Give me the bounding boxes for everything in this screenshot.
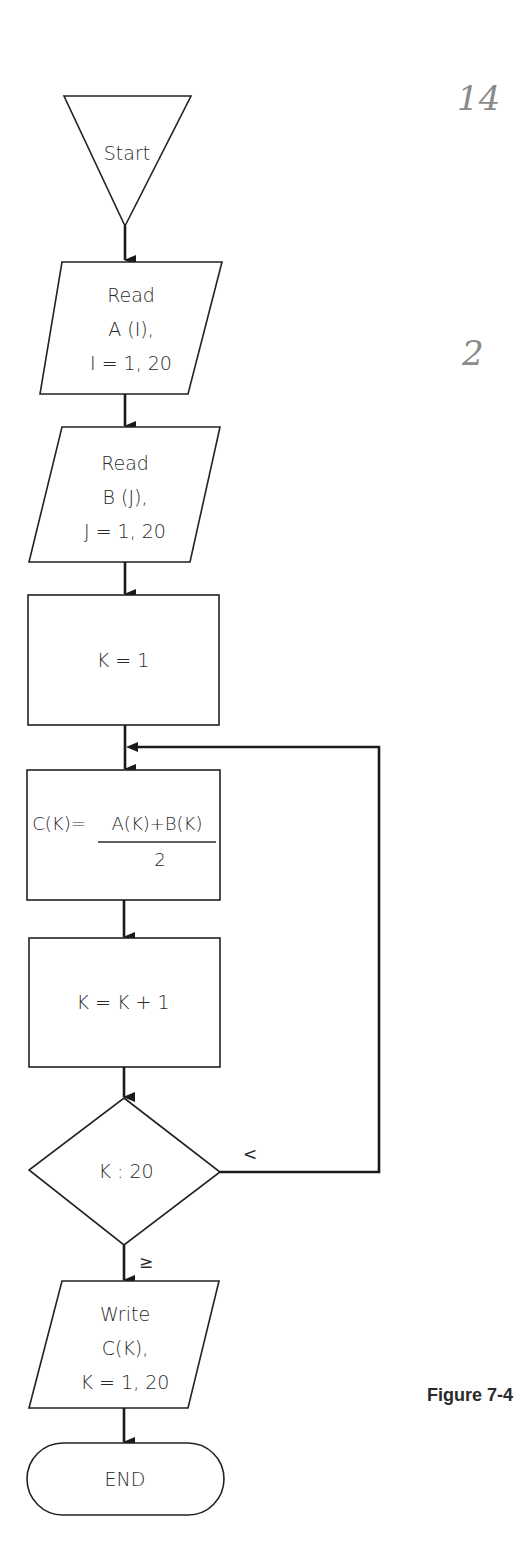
read-a-line-3: I = 1, 20 <box>90 352 172 374</box>
compute-c-node: C(K)= A(K)+B(K) 2 <box>27 770 220 900</box>
read-b-line-1: Read <box>101 452 149 474</box>
exit-condition-label: ≥ <box>139 1252 153 1272</box>
handwritten-page-mark: 14 <box>457 78 500 118</box>
compute-denominator: 2 <box>154 849 165 870</box>
handwritten-mark-2: 2 <box>461 333 484 373</box>
write-line-1: Write <box>100 1303 150 1325</box>
inc-k-label: K = K + 1 <box>76 991 169 1013</box>
loop-condition-label: < <box>243 1144 257 1164</box>
compute-lhs: C(K)= <box>32 813 86 834</box>
end-label: END <box>105 1468 146 1490</box>
compute-numerator: A(K)+B(K) <box>112 813 203 834</box>
read-a-node: Read A (I), I = 1, 20 <box>40 262 222 394</box>
write-line-2: C(K), <box>102 1337 149 1359</box>
write-c-node: Write C(K), K = 1, 20 <box>29 1281 219 1408</box>
read-b-node: Read B (J), J = 1, 20 <box>29 427 220 562</box>
flowchart: Start Read A (I), I = 1, 20 Read B (J), … <box>0 0 530 1554</box>
read-a-line-2: A (I), <box>108 318 154 340</box>
init-k-node: K = 1 <box>28 595 219 725</box>
inc-k-node: K = K + 1 <box>29 938 220 1067</box>
start-label: Start <box>104 142 150 164</box>
start-node: Start <box>64 96 191 226</box>
read-b-line-3: J = 1, 20 <box>84 520 166 542</box>
write-line-3: K = 1, 20 <box>81 1371 170 1393</box>
test-k-node: K : 20 <box>29 1098 220 1245</box>
init-k-label: K = 1 <box>97 649 150 671</box>
end-node: END <box>27 1443 224 1515</box>
loop-arrowhead-icon <box>126 742 138 752</box>
read-b-line-2: B (J), <box>103 486 148 508</box>
test-k-label: K : 20 <box>98 1160 153 1182</box>
figure-caption: Figure 7-4 <box>427 1385 513 1405</box>
read-a-line-1: Read <box>107 284 155 306</box>
